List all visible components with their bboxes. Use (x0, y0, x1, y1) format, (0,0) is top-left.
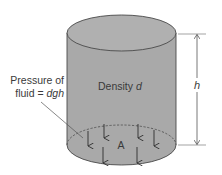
area-label: A (117, 139, 124, 151)
height-label: h (194, 79, 200, 91)
cylinder-top-ellipse (67, 15, 176, 51)
height-dimension: h (178, 34, 206, 145)
density-label: Density d (98, 80, 143, 92)
cylinder-pressure-diagram: h Density d Pressure of fluid = dgh A (0, 0, 222, 175)
pressure-label-line2: fluid = dgh (15, 87, 64, 99)
pressure-label-line1: Pressure of (10, 74, 64, 86)
